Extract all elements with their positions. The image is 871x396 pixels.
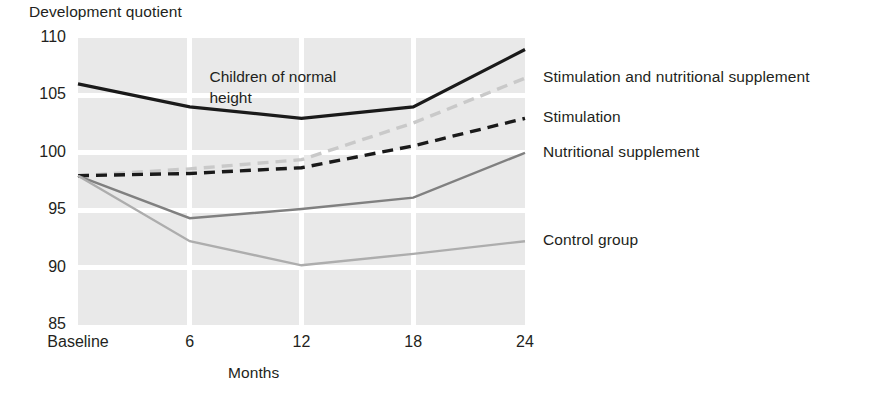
development-quotient-line-chart: Development quotient 110105100959085 Chi… xyxy=(0,0,871,396)
series-line xyxy=(78,153,525,218)
x-tick-label: 24 xyxy=(465,333,585,351)
y-tick-label: 105 xyxy=(20,85,66,103)
y-axis-title: Development quotient xyxy=(29,3,182,21)
legend-label: Nutritional supplement xyxy=(543,143,699,161)
legend-label: Stimulation and nutritional supplement xyxy=(543,68,810,86)
x-tick-label: 6 xyxy=(130,333,250,351)
y-tick-label: 100 xyxy=(20,143,66,161)
y-tick-label: 95 xyxy=(20,200,66,218)
series-line xyxy=(78,176,525,266)
y-tick-label: 90 xyxy=(20,258,66,276)
series-line xyxy=(78,118,525,175)
legend-label: Stimulation xyxy=(543,108,621,126)
legend-label: Control group xyxy=(543,231,638,249)
annotation-children-of-normal-height: Children of normal height xyxy=(210,66,337,108)
plot-area: Children of normal height xyxy=(78,38,525,325)
x-tick-label: Baseline xyxy=(18,333,138,351)
x-tick-label: 12 xyxy=(242,333,362,351)
y-tick-label: 110 xyxy=(20,28,66,46)
y-tick-label: 85 xyxy=(20,315,66,333)
x-tick-label: 18 xyxy=(353,333,473,351)
x-axis-title: Months xyxy=(228,364,279,382)
